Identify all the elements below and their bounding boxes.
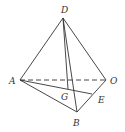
label-O: O: [110, 76, 118, 86]
label-D: D: [60, 5, 68, 15]
tetrahedron-diagram: D A O G E B: [0, 0, 125, 132]
diagram-svg: D A O G E B: [0, 0, 125, 132]
edge-DG: [63, 18, 68, 89]
edge-AB: [20, 80, 77, 112]
label-B: B: [72, 118, 80, 128]
label-E: E: [97, 95, 105, 105]
label-G: G: [61, 92, 68, 102]
label-A: A: [8, 76, 16, 86]
edge-DO: [63, 18, 106, 80]
edge-AE: [20, 80, 92, 94]
edge-DA: [20, 18, 63, 80]
